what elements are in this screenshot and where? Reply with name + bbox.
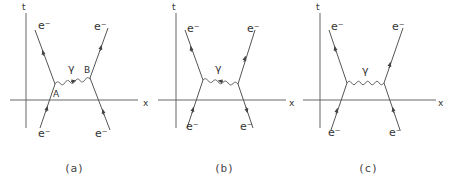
arrow-icon (393, 109, 394, 113)
electron-label: e⁻ (389, 126, 402, 139)
vertex-a-label: A (53, 89, 60, 99)
arrow-icon (192, 109, 193, 113)
electron-out-right (90, 28, 108, 78)
photon-label: γ (362, 64, 369, 77)
electron-out-left (185, 30, 203, 80)
photon-arrow-icon (71, 81, 74, 82)
electron-out-left (329, 30, 347, 83)
caption-b: (b) (214, 162, 234, 175)
electron-label: e⁻ (38, 19, 51, 32)
electron-out-right (238, 30, 255, 84)
electron-label: e⁻ (186, 120, 199, 133)
electron-out-left (35, 30, 55, 84)
photon-wavy-line (203, 79, 238, 85)
arrow-icon (103, 111, 104, 115)
electron-in-left (331, 83, 347, 130)
x-axis-label: x (438, 98, 444, 108)
electron-label: e⁻ (247, 22, 260, 35)
electron-label: e⁻ (331, 20, 344, 33)
arrow-icon (335, 48, 336, 52)
t-axis-label: t (22, 2, 26, 12)
feynman-diagrams-figure: t x e⁻ e⁻ e⁻ e⁻ γ B A (a) t x (0, 0, 450, 185)
photon-label: γ (215, 62, 222, 75)
x-axis-label: x (143, 98, 149, 108)
electron-label: e⁻ (187, 22, 200, 35)
electron-label: e⁻ (328, 126, 341, 139)
x-axis-label: x (289, 98, 295, 108)
electron-label: e⁻ (94, 20, 107, 33)
caption-c: (c) (358, 162, 378, 175)
electron-out-right (384, 28, 403, 83)
electron-label: e⁻ (392, 20, 405, 33)
electron-in-right (90, 78, 110, 130)
photon-arrow-icon (220, 81, 223, 82)
diagram-c: t x e⁻ e⁻ e⁻ e⁻ γ (c) (303, 2, 444, 175)
electron-label: e⁻ (95, 127, 108, 140)
photon-wavy-line (347, 81, 384, 85)
caption-a: (a) (64, 162, 84, 175)
electron-label: e⁻ (38, 127, 51, 140)
t-axis-label: t (316, 2, 320, 12)
diagram-a: t x e⁻ e⁻ e⁻ e⁻ γ B A (a) (10, 2, 149, 175)
diagram-b: t x e⁻ e⁻ e⁻ e⁻ γ (b) (158, 2, 295, 175)
t-axis-label: t (172, 2, 176, 12)
electron-in-right (384, 83, 400, 130)
photon-label: γ (68, 62, 75, 75)
arrow-icon (246, 107, 247, 111)
electron-label: e⁻ (240, 120, 253, 133)
arrow-icon (100, 47, 101, 51)
vertex-b-label: B (84, 65, 90, 75)
